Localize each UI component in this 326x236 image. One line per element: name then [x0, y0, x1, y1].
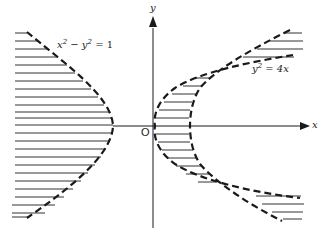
- hyperbola-equation-label: x2 − y2 = 1: [57, 40, 113, 50]
- inner-region-hatching: [156, 78, 216, 182]
- parabola-eq-end: = 4x: [262, 63, 289, 74]
- x-axis-label: x: [312, 120, 318, 130]
- origin-label: O: [141, 127, 150, 138]
- region-diagram: [0, 0, 326, 236]
- parabola-equation-label: y2 = 4x: [252, 64, 289, 74]
- hyperbola-eq-mid: − y: [67, 39, 87, 50]
- y-axis-arrow-icon: [149, 16, 157, 27]
- x-axis-arrow-icon: [300, 122, 310, 130]
- hyperbola-eq-end: = 1: [92, 39, 113, 50]
- y-axis-label: y: [150, 3, 156, 13]
